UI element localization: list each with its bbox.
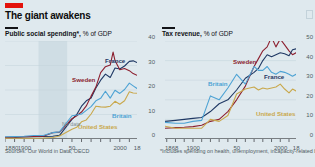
series-label-britain: Britain	[112, 112, 132, 119]
no-data-label: No data	[62, 121, 81, 127]
y-axis-left: 010203040	[137, 37, 155, 137]
right-chart-svg	[165, 41, 296, 139]
x-axis-ticks	[5, 139, 137, 144]
series-label-united-states: United States	[78, 123, 118, 130]
x-tick-label: 2000	[113, 145, 126, 151]
y-tick-label: 20	[139, 83, 155, 89]
y-tick-label: 0	[297, 132, 313, 138]
brand-tag	[5, 3, 23, 8]
panel-rule-right	[162, 27, 175, 29]
y-tick-label: 50	[297, 34, 313, 40]
source-note-left: Sources: Our World in Data; OECD	[5, 148, 89, 154]
series-line-united-states	[165, 84, 296, 128]
x-tick-label: 18	[134, 145, 141, 151]
footnote-right: *Includes spending on health, unemployme…	[160, 148, 315, 154]
panel-subtitle-right-light: % of GDP	[202, 30, 233, 37]
chart-corner-mark	[306, 10, 313, 19]
panel-rule-left	[5, 27, 18, 29]
panel-subtitle-left-light: % of GDP	[81, 30, 112, 37]
panel-public-social-spending: Public social spending*, % of GDP 010203…	[0, 27, 157, 167]
y-tick-label: 30	[297, 73, 313, 79]
series-label-france: France	[105, 57, 125, 64]
series-label-sweden: Sweden	[233, 58, 256, 65]
page-title: The giant awakens	[5, 10, 91, 21]
panel-subtitle-left-bold: Public social spending*,	[5, 30, 81, 37]
panel-subtitle-left: Public social spending*, % of GDP	[5, 30, 112, 37]
y-tick-label: 0	[139, 132, 155, 138]
series-label-sweden: Sweden	[72, 76, 95, 83]
series-label-united-states: United States	[256, 110, 296, 117]
y-axis-right: 01020304050	[295, 37, 313, 137]
x-axis-ticks	[165, 139, 296, 144]
y-tick-label: 40	[139, 34, 155, 40]
series-label-britain: Britain	[208, 80, 228, 87]
plot-area-right	[165, 41, 296, 139]
panel-tax-revenue: Tax revenue, % of GDP 01020304050 186819…	[157, 27, 315, 167]
y-tick-label: 20	[297, 93, 313, 99]
y-tick-label: 10	[297, 112, 313, 118]
series-label-france: France	[264, 73, 284, 80]
y-tick-label: 10	[139, 108, 155, 114]
y-tick-label: 40	[297, 54, 313, 60]
y-tick-label: 30	[139, 59, 155, 65]
panel-subtitle-right-bold: Tax revenue,	[162, 30, 202, 37]
panel-subtitle-right: Tax revenue, % of GDP	[162, 30, 233, 37]
